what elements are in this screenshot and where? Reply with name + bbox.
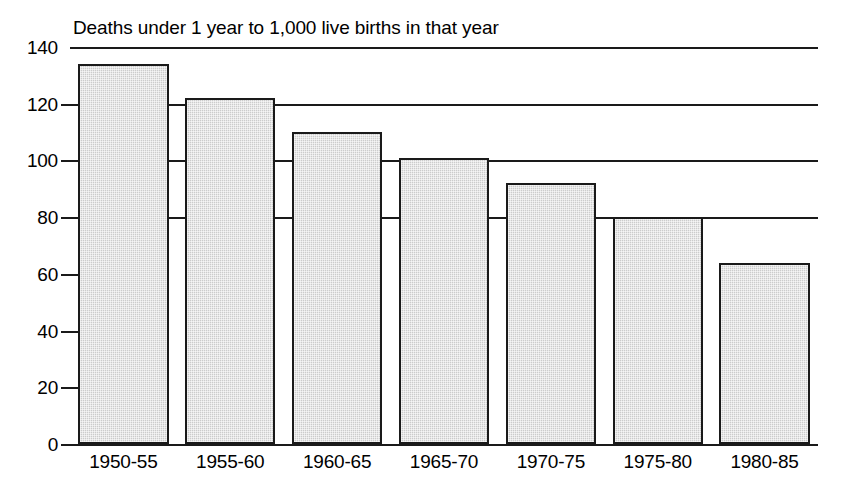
- y-tick-label: 60: [0, 264, 58, 283]
- y-tick-label: 140: [0, 38, 58, 57]
- gridline: [70, 104, 818, 106]
- axis-tick: [61, 104, 79, 106]
- bar: [185, 98, 275, 444]
- x-axis-line: [70, 444, 818, 446]
- chart-title: Deaths under 1 year to 1,000 live births…: [73, 18, 499, 39]
- axis-tick: [61, 160, 79, 162]
- y-tick-label: 0: [0, 435, 58, 454]
- y-tick-label: 20: [0, 378, 58, 397]
- x-tick-label: 1980-85: [711, 452, 818, 473]
- x-tick-label: 1950-55: [70, 452, 177, 473]
- bar: [292, 132, 382, 444]
- x-tick-label: 1955-60: [177, 452, 284, 473]
- y-tick-label: 40: [0, 321, 58, 340]
- y-tick-label: 120: [0, 94, 58, 113]
- axis-tick: [61, 331, 79, 333]
- axis-tick: [61, 387, 79, 389]
- bar-chart-figure: Deaths under 1 year to 1,000 live births…: [0, 0, 841, 486]
- x-tick-label: 1960-65: [284, 452, 391, 473]
- axis-tick: [61, 444, 79, 446]
- gridline: [70, 47, 818, 49]
- axis-tick: [61, 274, 79, 276]
- bar: [719, 263, 809, 444]
- bar: [399, 158, 489, 444]
- x-tick-label: 1965-70: [391, 452, 498, 473]
- bar: [78, 64, 168, 444]
- axis-tick: [61, 217, 79, 219]
- bar: [506, 183, 596, 444]
- x-tick-label: 1975-80: [604, 452, 711, 473]
- y-tick-label: 100: [0, 151, 58, 170]
- plot-area: [70, 47, 818, 444]
- x-tick-label: 1970-75: [497, 452, 604, 473]
- bar: [613, 217, 703, 444]
- y-tick-label: 80: [0, 208, 58, 227]
